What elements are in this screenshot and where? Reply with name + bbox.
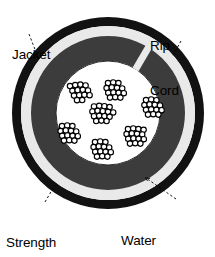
label-water-blocking-compounds: Water blocking compounds	[121, 203, 190, 257]
label-jacket: Jacket	[12, 17, 50, 77]
fiber-bundle-6	[124, 126, 147, 147]
label-strength-members: Strength members	[6, 205, 62, 257]
label-water-line-1: Water	[121, 233, 190, 248]
label-rip-cord-line-2: Cord	[150, 83, 179, 98]
label-strength-line-1: Strength	[6, 235, 62, 250]
label-jacket-line-1: Jacket	[12, 47, 50, 62]
label-rip-cord-line-1: Rip	[150, 38, 179, 53]
label-rip-cord: Rip Cord	[150, 8, 179, 113]
